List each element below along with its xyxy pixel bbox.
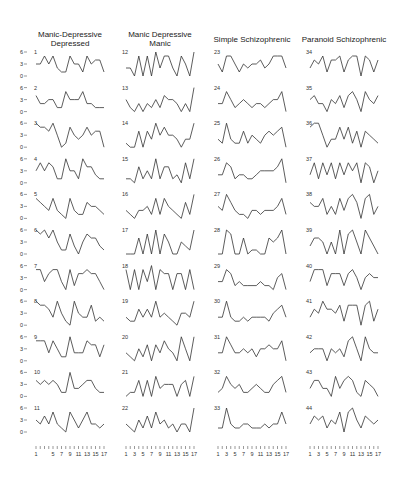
series-label: 13 — [122, 85, 128, 91]
group-title: Manic Depressive — [128, 30, 192, 39]
x-tick-label: 7 — [242, 451, 245, 457]
series-label: 35 — [306, 85, 312, 91]
y-tick-label: 6 — [20, 369, 23, 375]
series-label: 42 — [306, 334, 312, 340]
series-label: 33 — [214, 405, 220, 411]
x-tick-label: 9 — [250, 451, 253, 457]
y-tick-label: 0 — [20, 144, 23, 150]
group-title: Depressed — [51, 39, 90, 48]
x-tick-label: 1 — [216, 451, 219, 457]
series-label: 11 — [34, 405, 40, 411]
series-label: 38 — [306, 191, 312, 197]
y-tick-label: 6 — [20, 334, 23, 340]
x-tick-label: 7 — [334, 451, 337, 457]
x-tick-label: 3 — [317, 451, 320, 457]
series-line — [126, 88, 194, 112]
x-tick-label: 9 — [342, 451, 345, 457]
y-tick-label: 0 — [20, 393, 23, 399]
series-label: 25 — [214, 120, 220, 126]
series-line — [126, 376, 194, 396]
series-line — [310, 123, 378, 147]
x-tick-label: 17 — [283, 451, 289, 457]
series-label: 37 — [306, 156, 312, 162]
group-title: Paranoid Schizophrenic — [302, 35, 387, 44]
y-tick-label: 6 — [20, 156, 23, 162]
series-label: 26 — [214, 156, 220, 162]
x-tick-label: 17 — [375, 451, 381, 457]
series-label: 7 — [34, 263, 37, 269]
y-tick-label: 3 — [20, 346, 23, 352]
series-line — [126, 194, 194, 218]
x-tick-label: 1 — [34, 451, 37, 457]
series-line — [218, 408, 286, 428]
series-label: 19 — [122, 298, 128, 304]
series-label: 17 — [122, 227, 128, 233]
x-tick-label: 13 — [358, 451, 364, 457]
series-label: 20 — [122, 334, 128, 340]
y-tick-label: 6 — [20, 49, 23, 55]
series-line — [36, 159, 104, 179]
series-label: 4 — [34, 156, 37, 162]
series-line — [310, 408, 378, 432]
series-line — [126, 230, 194, 254]
series-label: 16 — [122, 191, 128, 197]
series-line — [126, 123, 194, 147]
series-label: 14 — [122, 120, 128, 126]
series-line — [218, 194, 286, 218]
series-label: 5 — [34, 191, 37, 197]
x-tick-label: 11 — [166, 451, 172, 457]
y-tick-label: 3 — [20, 168, 23, 174]
y-tick-label: 3 — [20, 310, 23, 316]
series-label: 39 — [306, 227, 312, 233]
series-line — [310, 230, 378, 254]
x-tick-label: 7 — [150, 451, 153, 457]
series-label: 34 — [306, 49, 312, 55]
y-tick-label: 3 — [20, 132, 23, 138]
y-tick-label: 0 — [20, 180, 23, 186]
x-tick-label: 15 — [366, 451, 372, 457]
series-line — [310, 163, 378, 183]
series-label: 23 — [214, 49, 220, 55]
series-line — [36, 198, 104, 218]
series-line — [36, 270, 104, 290]
series-line — [126, 408, 194, 432]
y-tick-label: 3 — [20, 239, 23, 245]
series-line — [36, 56, 104, 72]
y-tick-label: 0 — [20, 109, 23, 115]
series-label: 24 — [214, 85, 220, 91]
series-line — [36, 123, 104, 147]
y-tick-label: 0 — [20, 73, 23, 79]
x-tick-label: 11 — [350, 451, 356, 457]
y-tick-label: 3 — [20, 61, 23, 67]
series-line — [310, 301, 378, 325]
y-tick-label: 0 — [20, 215, 23, 221]
series-label: 30 — [214, 298, 220, 304]
series-label: 10 — [34, 369, 40, 375]
series-label: 15 — [122, 156, 128, 162]
series-label: 8 — [34, 298, 37, 304]
series-line — [218, 123, 286, 147]
series-label: 21 — [122, 369, 128, 375]
x-tick-label: 1 — [308, 451, 311, 457]
small-multiples-chart: Manic-DepressiveDepressed163026303630463… — [0, 0, 403, 483]
y-tick-label: 0 — [20, 287, 23, 293]
series-line — [126, 52, 194, 76]
series-line — [126, 337, 194, 361]
x-tick-label: 5 — [325, 451, 328, 457]
y-tick-label: 3 — [20, 97, 23, 103]
series-label: 3 — [34, 120, 37, 126]
series-line — [126, 266, 194, 290]
series-label: 32 — [214, 369, 220, 375]
y-tick-label: 6 — [20, 191, 23, 197]
x-tick-label: 3 — [225, 451, 228, 457]
group-title: Manic — [149, 39, 170, 48]
group-title: Simple Schizophrenic — [214, 35, 291, 44]
series-line — [218, 56, 286, 72]
series-line — [36, 412, 104, 432]
series-label: 1 — [34, 49, 37, 55]
series-line — [36, 372, 104, 392]
x-tick-label: 13 — [174, 451, 180, 457]
series-label: 18 — [122, 263, 128, 269]
series-label: 31 — [214, 334, 220, 340]
series-line — [218, 270, 286, 290]
